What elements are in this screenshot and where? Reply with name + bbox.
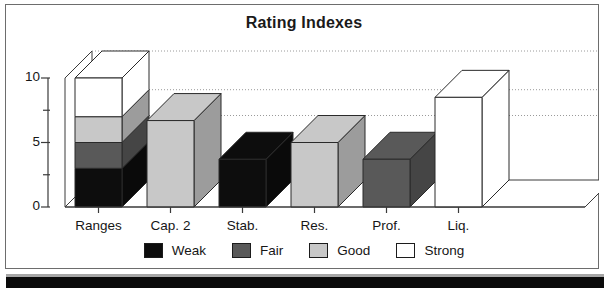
bar-segment-ranges-weak	[75, 168, 122, 207]
bar-segment-ranges-strong	[75, 78, 122, 117]
legend-label: Good	[337, 243, 370, 258]
legend-item: Fair	[232, 243, 283, 258]
x-tick-label: Liq.	[414, 218, 504, 233]
y-tick-label: 5	[4, 134, 40, 149]
y-tick-label: 0	[4, 198, 40, 213]
legend-item: Good	[309, 243, 370, 258]
legend-swatch-good	[309, 243, 328, 258]
bar-segment-prof--fair	[363, 159, 410, 207]
legend-label: Weak	[172, 243, 206, 258]
y-tick-label: 10	[4, 69, 40, 84]
bar-segment-cap-2-good	[147, 121, 194, 207]
chart-screenshot: Rating Indexes 1050 RangesCap. 2Stab.Res…	[0, 0, 608, 290]
bar-segment-liq--strong	[435, 97, 482, 207]
legend-label: Fair	[260, 243, 283, 258]
scan-black-bar	[6, 277, 604, 288]
bar-segment-stab--weak	[219, 159, 266, 207]
legend-swatch-strong	[396, 243, 415, 258]
chart-legend: WeakFairGoodStrong	[0, 243, 608, 258]
legend-item: Weak	[144, 243, 206, 258]
bar-segment-ranges-fair	[75, 143, 122, 169]
legend-label: Strong	[424, 243, 464, 258]
legend-swatch-fair	[232, 243, 251, 258]
bar-segment-ranges-good	[75, 117, 122, 143]
legend-item: Strong	[396, 243, 464, 258]
bar-segment-res--good	[291, 143, 338, 208]
chart-plot-area	[5, 4, 599, 244]
legend-swatch-weak	[144, 243, 163, 258]
